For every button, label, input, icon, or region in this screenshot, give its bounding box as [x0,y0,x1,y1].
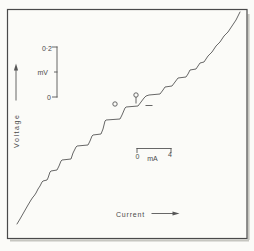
origin-marker-circle-left [113,102,117,106]
x-scalebar: 0 mA 4 [136,149,173,162]
curve-markers [113,93,152,106]
voltage-arrow-head-icon [14,64,18,71]
current-arrow-head-icon [173,211,180,215]
ylabel-text: Voltage [13,113,21,148]
x-scalebar-right-label: 4 [168,151,172,158]
voltage-axis-label: Voltage [13,64,21,149]
y-scalebar-unit-label: mV [38,69,49,76]
y-scalebar: 0·2 mV 0 [38,45,58,102]
x-scalebar-zero-label: 0 [136,153,140,160]
origin-marker-circle-top [134,93,138,97]
xlabel-text: Current [116,211,145,218]
figure-canvas: 0·2 mV 0 0 mA 4 Voltage Current [0,0,254,251]
x-scalebar-unit-label: mA [147,155,158,162]
y-scalebar-top-label: 0·2 [42,45,52,52]
current-axis-label: Current [116,211,180,218]
figure: 0·2 mV 0 0 mA 4 Voltage Current [0,0,254,251]
y-scalebar-zero-label: 0 [47,94,51,101]
